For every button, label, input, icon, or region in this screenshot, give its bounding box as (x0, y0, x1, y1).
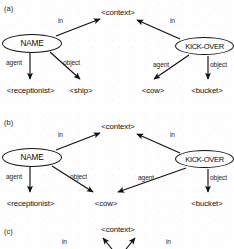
panel-b-left-in-label: in (58, 131, 63, 138)
panel-b-right-agent-label: agent (138, 174, 154, 181)
panel-a-left-object-label: object (63, 59, 80, 66)
panel-a-name-node-label: NAME (21, 39, 44, 48)
panel-c: (c) <context> in in (0, 222, 234, 249)
panel-a-context-node: <context> (93, 8, 143, 17)
panel-a-receptionist-node: <receptionist> (0, 86, 61, 95)
panel-a-name-node: NAME (2, 34, 62, 53)
panel-a-kickover-node: KICK-OVER (175, 37, 234, 55)
panel-c-edges (0, 222, 234, 249)
panel-a-left-in-label: in (58, 17, 63, 24)
panel-b-left-agent-label: agent (6, 173, 22, 180)
panel-b-right-in-label: in (170, 131, 175, 138)
panel-a-right-agent-label: agent (153, 61, 169, 68)
figure-root: (a) <context> in in NAME (0, 0, 234, 249)
panel-c-right-in-label: in (166, 238, 171, 245)
panel-b-kickover-node-label: KICK-OVER (185, 155, 224, 164)
panel-a-ship-node: <ship> (62, 86, 100, 95)
panel-a-right-in-label: in (170, 17, 175, 24)
panel-c-left-in-label: in (62, 238, 67, 245)
panel-a-kickover-node-label: KICK-OVER (185, 42, 224, 51)
panel-b-cow-node: <cow> (86, 199, 126, 208)
panel-b-right-object-label: object (210, 174, 227, 181)
panel-a: (a) <context> in in NAME (0, 0, 234, 110)
panel-a-left-agent-label: agent (6, 59, 22, 66)
panel-a-cow-node: <cow> (133, 86, 173, 95)
panel-b-receptionist-node: <receptionist> (0, 199, 61, 208)
panel-b-context-node: <context> (93, 122, 143, 131)
panel-a-bucket-node: <bucket> (184, 86, 230, 95)
panel-b-left-object-label: object (70, 173, 87, 180)
panel-b: (b) <context> in in NAME (0, 110, 234, 222)
panel-b-name-node: NAME (2, 148, 62, 167)
panel-b-bucket-node: <bucket> (184, 199, 230, 208)
panel-b-kickover-node: KICK-OVER (175, 150, 234, 168)
panel-b-name-node-label: NAME (21, 153, 44, 162)
panel-a-right-object-label: object (210, 61, 227, 68)
